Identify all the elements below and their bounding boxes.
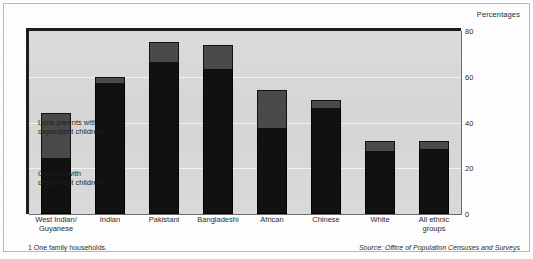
y-axis-tick-label: 40 [465,118,473,127]
bar-stack [365,141,395,214]
bar-segment-lone-parents [311,100,341,109]
x-axis-tick-label: All ethnic groups [407,216,461,233]
bar-segment-lone-parents [257,90,287,129]
x-axis-tick-label: Pakistani [137,216,191,225]
bar-stack [257,90,287,214]
x-axis: West Indian/ GuyaneseIndianPakistaniBang… [29,216,461,246]
legend-label-couples: Couples with dependent children [38,170,132,187]
footnote: 1 One family households. [28,244,107,251]
legend-label-lone-parents: Lone parents with dependent children [38,119,132,136]
y-axis-tick-label: 20 [465,164,473,173]
bar-segment-couples [365,152,395,214]
bar-segment-lone-parents [365,141,395,152]
x-axis-tick-label: West Indian/ Guyanese [29,216,83,233]
bar-segment-couples [257,129,287,214]
y-axis-tick-label: 60 [465,72,473,81]
y-axis: 020406080 [465,4,489,259]
plot-area: Lone parents with dependent children Cou… [29,31,462,215]
bar-stack [149,42,179,214]
bar-segment-couples [203,70,233,214]
bar-segment-couples [95,84,125,214]
x-axis-tick-label: Indian [83,216,137,225]
bar-stack [203,45,233,214]
x-axis-tick-label: Bangladeshi [191,216,245,225]
bar-stack [311,100,341,214]
bar-segment-couples [419,150,449,214]
bar-segment-lone-parents [149,42,179,63]
bar-segment-lone-parents [419,141,449,150]
bar-segment-lone-parents [203,45,233,70]
source-note: Source: Office of Population Censuses an… [359,244,520,251]
bar-stack [95,77,125,214]
x-axis-tick-label: Chinese [299,216,353,225]
bar-segment-couples [311,109,341,214]
chart-page: Percentages Lone parents with dependent … [0,0,533,259]
bar-segment-couples [149,63,179,214]
x-axis-tick-label: African [245,216,299,225]
bar-stack [419,141,449,214]
y-axis-tick-label: 0 [465,210,469,219]
scan-frame: Percentages Lone parents with dependent … [3,3,530,252]
x-axis-tick-label: White [353,216,407,225]
bar-segment-lone-parents [95,77,125,84]
y-axis-tick-label: 80 [465,27,473,36]
